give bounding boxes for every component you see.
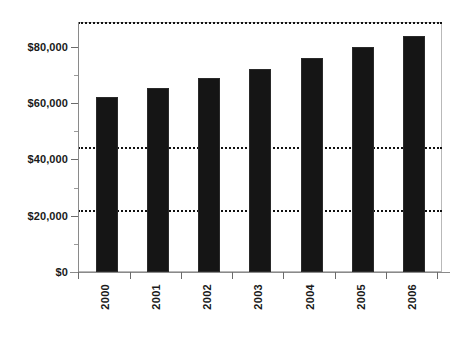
- y-tick-minor-50000: [74, 131, 78, 132]
- y-axis-label-0: $0: [2, 267, 68, 278]
- x-axis-label-2001: 2001: [151, 284, 165, 310]
- y-axis-labels: $80,000 $60,000 $40,000 $20,000 $0: [0, 0, 68, 339]
- y-axis-label-20000: $20,000: [2, 211, 68, 222]
- x-axis-label-2004: 2004: [305, 284, 319, 310]
- y-tick-60000: [71, 103, 78, 104]
- bar-2004: [301, 58, 323, 272]
- x-axis-label-2006: 2006: [407, 284, 421, 310]
- y-axis-label-80000: $80,000: [2, 42, 68, 53]
- y-tick-80000: [71, 47, 78, 48]
- y-tick-20000: [71, 216, 78, 217]
- bar-2005: [352, 47, 374, 272]
- bar-2002: [198, 78, 220, 272]
- plot-area: [78, 22, 442, 272]
- y-axis-label-40000: $40,000: [2, 154, 68, 165]
- x-tick-4: [283, 272, 284, 279]
- x-axis-label-2000: 2000: [100, 284, 114, 310]
- gridline-80000: [78, 22, 442, 24]
- y-tick-40000: [71, 159, 78, 160]
- y-axis-line: [78, 22, 79, 272]
- x-axis-line: [70, 272, 450, 273]
- y-tick-minor-70000: [74, 75, 78, 76]
- x-tick-2: [181, 272, 182, 279]
- x-tick-6: [386, 272, 387, 279]
- bar-2000: [96, 97, 118, 272]
- bar-2006: [403, 36, 425, 272]
- x-axis-label-2003: 2003: [253, 284, 267, 310]
- bar-2001: [147, 88, 169, 272]
- x-axis-label-2002: 2002: [202, 284, 216, 310]
- x-tick-1: [130, 272, 131, 279]
- y-axis-label-60000: $60,000: [2, 98, 68, 109]
- x-tick-0: [78, 272, 79, 279]
- x-tick-3: [232, 272, 233, 279]
- y-tick-minor-10000: [74, 244, 78, 245]
- y-tick-minor-30000: [74, 188, 78, 189]
- x-tick-5: [335, 272, 336, 279]
- bar-2003: [249, 69, 271, 272]
- bar-chart: $80,000 $60,000 $40,000 $20,000 $0 2000 …: [0, 0, 465, 339]
- x-axis-label-2005: 2005: [356, 284, 370, 310]
- x-tick-7: [437, 272, 438, 279]
